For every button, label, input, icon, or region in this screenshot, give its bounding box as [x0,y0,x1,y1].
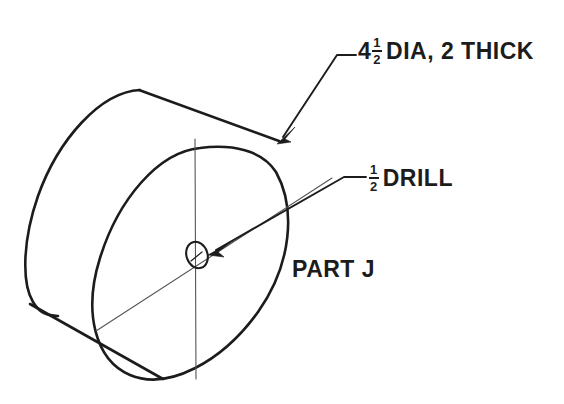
drill-fraction-denominator: 2 [369,177,379,193]
drilled-hole-ellipse [183,239,211,271]
drill-note: 1 2 DRILL [368,163,453,193]
hole-center-tick [191,252,202,261]
drill-leader-arrowhead [208,240,234,257]
diameter-whole-number: 4 [358,38,371,65]
part-label: PART J [292,256,375,283]
diameter-leader-arrowhead [277,127,295,144]
diameter-note-text: DIA, 2 THICK [386,38,534,65]
engineering-drawing: 4 1 2 DIA, 2 THICK 1 2 DRILL PART J [0,0,564,404]
diameter-fraction-denominator: 2 [372,50,382,66]
drill-fraction-numerator: 1 [369,163,379,177]
top-tangent-line [139,90,279,141]
drill-fraction: 1 2 [369,163,379,193]
diameter-fraction-numerator: 1 [372,36,382,50]
bottom-tangent-line [30,304,163,379]
drill-note-text: DRILL [383,165,453,192]
diameter-fraction: 1 2 [372,36,382,66]
back-face-ellipse [25,90,140,316]
vertical-center-line [195,139,196,379]
diameter-note: 4 1 2 DIA, 2 THICK [358,36,534,66]
diameter-leader-line [283,55,356,137]
